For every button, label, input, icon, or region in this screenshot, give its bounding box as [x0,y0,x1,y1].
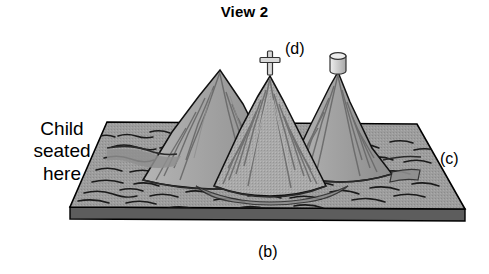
cylinder-top-ellipse [330,53,346,60]
figure-canvas: View 2 Child seated here (a) (b) (c) (d) [0,0,489,274]
terrain-model-illustration [0,0,489,274]
cylinder-marker-icon [330,53,346,75]
cross-marker-icon [260,51,280,75]
cross-horizontal-bar [260,58,280,63]
